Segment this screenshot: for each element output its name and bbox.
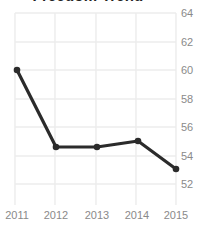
data-point-2015: [173, 166, 180, 173]
y-tick-label-60: 60: [181, 65, 209, 76]
x-tick-label-2015: 2015: [156, 210, 196, 221]
y-tick-label-56: 56: [181, 122, 209, 133]
y-tick-label-54: 54: [181, 151, 209, 162]
x-tick-label-2014: 2014: [117, 210, 157, 221]
y-tick-label-58: 58: [181, 94, 209, 105]
plot-area: [0, 0, 211, 205]
data-point-2011: [14, 67, 21, 74]
data-point-2014: [135, 138, 142, 145]
data-point-2013: [94, 144, 101, 151]
line-chart: Freedom Trend: [0, 0, 211, 231]
data-point-2012: [53, 144, 60, 151]
y-tick-label-62: 62: [181, 37, 209, 48]
y-tick-label-64: 64: [181, 8, 209, 19]
x-tick-label-2011: 2011: [0, 210, 37, 221]
x-tick-label-2013: 2013: [77, 210, 117, 221]
y-tick-label-52: 52: [181, 179, 209, 190]
plot-svg: [0, 0, 211, 205]
x-tick-label-2012: 2012: [36, 210, 76, 221]
